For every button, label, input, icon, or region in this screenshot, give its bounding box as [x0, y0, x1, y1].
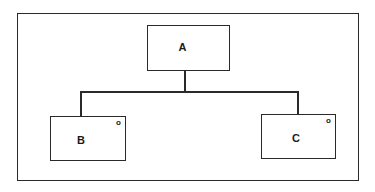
- connector-to-c: [297, 91, 299, 115]
- node-c-label: C: [257, 132, 335, 144]
- node-b-marker: o: [116, 118, 121, 127]
- node-b-label: B: [37, 134, 125, 146]
- node-c: o C: [261, 114, 336, 159]
- node-a-label: A: [136, 41, 229, 53]
- connector-a-stem: [184, 70, 186, 93]
- node-c-marker: o: [326, 116, 331, 125]
- connector-horizontal: [80, 91, 298, 93]
- node-b: o B: [50, 116, 126, 161]
- node-a: A: [147, 25, 230, 71]
- connector-to-b: [80, 91, 82, 117]
